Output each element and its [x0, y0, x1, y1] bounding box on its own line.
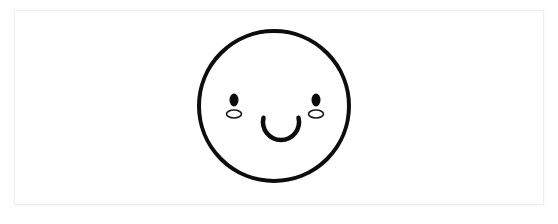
left-eye-pupil-icon [230, 94, 239, 107]
right-eye-pupil-icon [312, 94, 321, 107]
image-canvas: Smiley Face Line Drawing Simple black li… [0, 0, 558, 224]
left-eye-icon [227, 94, 242, 119]
right-eye-icon [309, 94, 324, 119]
smiley-face-drawing [0, 0, 558, 224]
face-circle-icon [199, 31, 349, 181]
smile-arc-icon [263, 118, 299, 140]
right-eye-lower-lid-icon [309, 110, 324, 118]
left-eye-lower-lid-icon [227, 110, 242, 118]
